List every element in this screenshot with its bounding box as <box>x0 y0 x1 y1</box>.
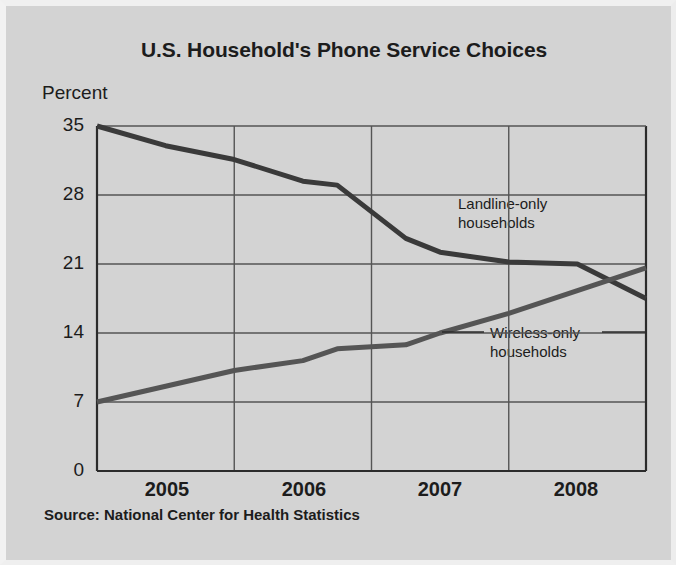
gridlines <box>97 126 646 471</box>
chart-canvas: U.S. Household's Phone Service Choices P… <box>6 6 676 565</box>
chart-figure: U.S. Household's Phone Service Choices P… <box>0 0 676 565</box>
plot-area <box>6 6 676 565</box>
